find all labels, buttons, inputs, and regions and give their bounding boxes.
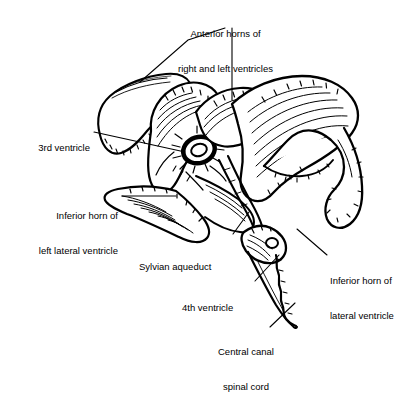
label-central-canal-line1: Central canal [196, 346, 296, 358]
label-third-ventricle: 3rd ventricle [8, 119, 90, 177]
label-central-canal: Central canal spinal cord [196, 323, 296, 396]
label-inferior-horn-left: Inferior horn of left lateral ventricle [8, 187, 118, 279]
label-third-ventricle-line1: 3rd ventricle [8, 142, 90, 154]
label-inferior-horn-lateral-line1: Inferior horn of [330, 275, 417, 287]
label-inferior-horn-lateral-line2: lateral ventricle [330, 310, 417, 322]
label-inferior-horn-left-line1: Inferior horn of [8, 210, 118, 222]
label-inferior-horn-left-line2: left lateral ventricle [8, 245, 118, 257]
label-fourth-ventricle-line1: 4th ventricle [182, 302, 262, 314]
label-anterior-horns: Anterior horns of right and left ventric… [148, 5, 303, 97]
label-central-canal-line2: spinal cord [196, 381, 296, 393]
label-anterior-horns-line2: right and left ventricles [148, 63, 303, 75]
label-sylvian-aqueduct-line1: Sylvian aqueduct [139, 261, 249, 273]
label-anterior-horns-line1: Anterior horns of [148, 28, 303, 40]
label-inferior-horn-lateral: Inferior horn of lateral ventricle [330, 252, 417, 344]
